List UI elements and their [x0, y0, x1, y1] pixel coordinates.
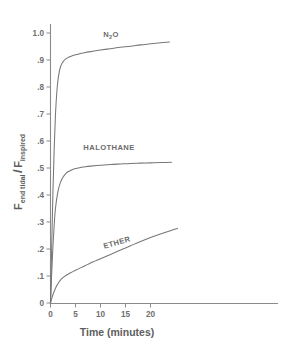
- chart-page: 1.0 .9 .8 .7 .6 .5 .4 .3 .2 .1 0 0 5 10 …: [0, 0, 289, 349]
- y-tick-label: .6: [37, 137, 44, 146]
- chart-background: [0, 0, 289, 349]
- series-label-halothane: HALOTHANE: [83, 143, 134, 152]
- x-tick-label: 20: [146, 310, 156, 319]
- y-axis-title-sub1: end tidal: [19, 174, 26, 203]
- x-tick-label: 15: [121, 310, 131, 319]
- y-axis-title-sub2: inspired: [19, 134, 27, 161]
- y-tick-label: .7: [37, 110, 44, 119]
- series-label-n2o-post: O: [113, 30, 119, 39]
- y-tick-label: .8: [37, 83, 44, 92]
- x-tick-label: 10: [96, 310, 106, 319]
- y-tick-label: .3: [37, 218, 44, 227]
- anesthetic-uptake-chart: 1.0 .9 .8 .7 .6 .5 .4 .3 .2 .1 0 0 5 10 …: [0, 0, 289, 349]
- y-tick-label: 1.0: [33, 29, 45, 38]
- series-label-halothane-text: HALOTHANE: [83, 143, 134, 152]
- y-tick-label: .1: [37, 272, 44, 281]
- y-tick-label: .4: [37, 191, 44, 200]
- x-axis-title: Time (minutes): [80, 326, 154, 338]
- y-tick-label: .9: [37, 56, 44, 65]
- y-tick-label: 0: [39, 299, 44, 308]
- y-tick-label: .5: [37, 164, 44, 173]
- y-axis-title-slash: /: [10, 169, 25, 173]
- y-tick-label: .2: [37, 245, 44, 254]
- x-tick-label: 0: [48, 310, 53, 319]
- x-tick-label: 5: [73, 310, 78, 319]
